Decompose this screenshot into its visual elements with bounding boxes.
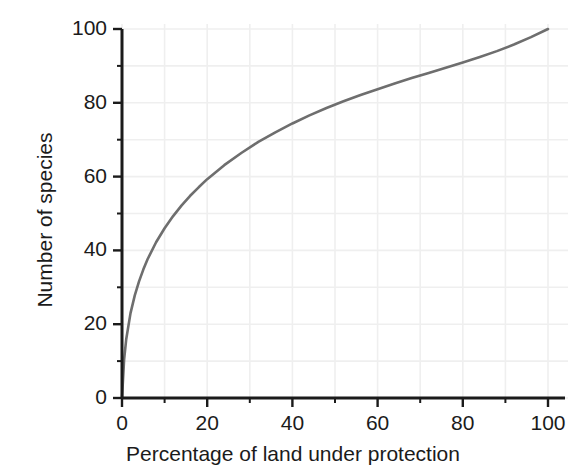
- x-tick-label: 0: [92, 411, 152, 435]
- y-tick-label: 0: [47, 385, 107, 409]
- x-tick-label: 60: [348, 411, 408, 435]
- x-tick-label: 100: [518, 411, 578, 435]
- x-tick-label: 80: [433, 411, 493, 435]
- y-tick-label: 100: [47, 16, 107, 40]
- x-tick-label: 20: [177, 411, 237, 435]
- x-axis-title: Percentage of land under protection: [0, 442, 586, 466]
- y-axis-title: Number of species: [33, 70, 57, 370]
- x-tick-label: 40: [262, 411, 322, 435]
